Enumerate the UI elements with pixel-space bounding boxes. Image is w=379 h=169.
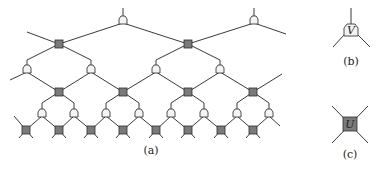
u-node [184, 126, 192, 134]
v-node [102, 109, 110, 117]
u-node [55, 126, 63, 134]
u-node [184, 88, 192, 96]
u-node [22, 126, 30, 134]
v-node [233, 109, 241, 117]
panel-b-v-tensor: V (b) [333, 8, 370, 68]
v-node [200, 109, 208, 117]
u-node [87, 126, 95, 134]
u-node [217, 126, 225, 134]
panel-a-network: (a) [10, 8, 286, 157]
v-node [250, 16, 258, 24]
u-node [249, 88, 257, 96]
v-node [135, 109, 143, 117]
v-node [23, 65, 31, 73]
u-node [184, 40, 192, 48]
v-node [119, 16, 127, 24]
caption-c: (c) [343, 148, 358, 161]
v-tensor-label: V [347, 24, 356, 37]
u-nodes [22, 40, 257, 134]
network-edges [10, 8, 286, 138]
tensor-network-figure: (a) V (b) U (c) [0, 0, 379, 169]
panel-c-u-tensor: U (c) [332, 106, 368, 161]
caption-b: (b) [343, 55, 359, 68]
u-node [119, 88, 127, 96]
caption-a: (a) [143, 144, 158, 157]
u-node [55, 40, 63, 48]
v-node [216, 65, 224, 73]
v-node [38, 109, 46, 117]
u-node [55, 88, 63, 96]
u-tensor-label: U [345, 118, 355, 131]
v-node [152, 65, 160, 73]
v-node [265, 109, 273, 117]
u-node [249, 126, 257, 134]
u-node [152, 126, 160, 134]
v-node [167, 109, 175, 117]
v-node [70, 109, 78, 117]
v-node [87, 65, 95, 73]
u-node [119, 126, 127, 134]
